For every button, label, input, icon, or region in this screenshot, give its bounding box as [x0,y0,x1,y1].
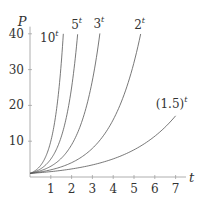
x-tick-label: 6 [151,182,159,196]
series-label: 2t [134,16,146,32]
series-label: (1.5)t [156,95,188,111]
curve-5 [30,34,78,173]
x-tick-label: 7 [172,182,180,196]
y-axis-label: P [17,14,27,29]
curve-1-5 [30,116,176,174]
y-tick-label: 20 [9,98,24,112]
y-tick-label: 40 [9,27,24,41]
series-label: 5t [71,16,83,32]
labels: 10t5t3t2t(1.5)t [40,15,188,110]
x-tick-label: 2 [68,182,76,196]
curve-3 [30,33,100,173]
x-axis-label: t [189,170,195,185]
x-tick-label: 3 [89,182,97,196]
x-tick-label: 1 [47,182,55,196]
x-tick-label: 4 [109,182,117,196]
x-tick-label: 5 [130,182,138,196]
curve-2 [30,34,141,173]
curves [30,33,176,173]
exponential-growth-chart: 123456710203040tP 10t5t3t2t(1.5)t [0,0,207,207]
series-label: 10t [40,29,59,45]
y-tick-label: 30 [9,63,24,77]
series-label: 3t [93,15,105,31]
curve-10 [30,34,63,174]
y-tick-label: 10 [9,134,24,148]
